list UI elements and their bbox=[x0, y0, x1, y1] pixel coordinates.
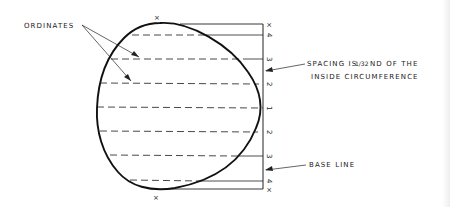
spacing-fraction: 1/32 bbox=[355, 60, 369, 67]
ordinate-diagram: ORDINATES × × × 4 3 2 1 2 3 4 × SPACING … bbox=[0, 0, 450, 207]
ordinate-2-bottom-dashed bbox=[100, 131, 258, 132]
spacing-label-line2: INSIDE CIRCUMFERENCE bbox=[311, 73, 419, 81]
bottom-curve-end-mark: × bbox=[153, 194, 159, 202]
bottom-baseline-end-mark: × bbox=[265, 187, 273, 193]
ordinate-2-top-dashed bbox=[100, 83, 259, 84]
base-line-label: BASE LINE bbox=[309, 161, 355, 169]
diagram-canvas: ORDINATES × × × 4 3 2 1 2 3 4 × SPACING … bbox=[0, 0, 450, 207]
ordinate-number: 2 bbox=[265, 130, 273, 134]
ordinates-leader-1 bbox=[82, 25, 139, 57]
ordinate-number: 3 bbox=[265, 57, 273, 61]
spacing-label-line1: SPACING IS bbox=[307, 60, 357, 68]
ordinate-1-dashed bbox=[97, 107, 263, 108]
ordinate-number: 4 bbox=[265, 179, 273, 184]
top-baseline-end-mark: × bbox=[265, 22, 273, 28]
arrowhead-icon bbox=[131, 51, 139, 57]
ordinate-4-bottom-dashed bbox=[130, 180, 200, 181]
ordinate-number: 4 bbox=[265, 33, 273, 38]
ordinate-3-bottom-dashed bbox=[110, 155, 236, 156]
ordinate-number: 2 bbox=[265, 82, 273, 86]
ordinates-label: ORDINATES bbox=[24, 22, 74, 30]
ordinate-number: 3 bbox=[265, 154, 273, 158]
arrowhead-icon bbox=[124, 74, 131, 81]
ordinate-number: 1 bbox=[265, 106, 273, 110]
ordinates-leader-2 bbox=[82, 25, 131, 81]
section-curve bbox=[97, 23, 261, 189]
spacing-label-suffix: ND OF THE bbox=[370, 60, 418, 68]
top-curve-end-mark: × bbox=[154, 14, 160, 22]
